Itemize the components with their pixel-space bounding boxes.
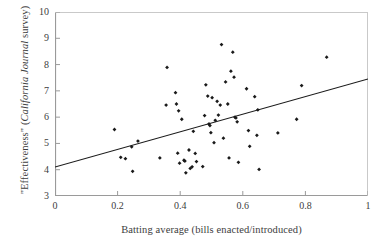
data-point-marker [119, 155, 123, 159]
data-point-marker [325, 55, 329, 59]
y-axis-title-italic: California Journal [19, 41, 30, 122]
data-point-marker [193, 152, 197, 156]
data-point-marker [131, 169, 135, 173]
tick-marks [55, 12, 368, 196]
data-point-marker [201, 165, 205, 169]
data-point-marker [195, 160, 199, 164]
data-point-marker [113, 128, 117, 132]
data-point-marker [220, 43, 224, 47]
data-point-marker [255, 133, 259, 137]
x-tick-label: 0 [35, 201, 75, 211]
data-point-marker [295, 117, 299, 121]
x-tick-label: 0.6 [223, 201, 263, 211]
data-point-marker [176, 151, 180, 155]
scatter-chart-figure: "Effectiveness" (California Journal surv… [0, 0, 382, 244]
data-point-marker [218, 103, 222, 107]
data-point-marker [210, 96, 214, 100]
data-point-marker [232, 75, 236, 79]
data-point-marker [158, 156, 162, 160]
data-point-marker [206, 94, 210, 98]
plot-area [55, 12, 368, 196]
data-point-marker [191, 129, 195, 133]
data-point-marker [300, 84, 304, 88]
y-axis-title-prefix: "Effectiveness" ( [19, 122, 30, 195]
y-tick-label: 8 [15, 60, 49, 70]
y-tick-label: 10 [15, 7, 49, 17]
data-point-marker [224, 80, 228, 84]
data-point-marker [175, 102, 179, 106]
y-tick-label: 3 [15, 191, 49, 201]
x-tick-label: 0.4 [160, 201, 200, 211]
data-point-marker [203, 114, 207, 118]
data-point-marker [276, 131, 280, 135]
data-point-marker [231, 50, 235, 54]
data-point-marker [245, 87, 249, 91]
data-point-marker [226, 102, 230, 106]
data-point-marker [124, 157, 128, 161]
data-point-marker [212, 141, 216, 145]
data-point-marker [136, 139, 140, 143]
data-point-marker [221, 136, 225, 140]
x-tick-label: 0.8 [285, 201, 325, 211]
data-points [113, 43, 329, 175]
data-point-marker [227, 156, 231, 160]
data-point-marker [229, 69, 233, 73]
data-point-marker [187, 148, 191, 152]
data-point-marker [204, 83, 208, 87]
x-axis-title: Batting average (bills enacted/introduce… [55, 224, 368, 235]
data-point-marker [257, 168, 261, 172]
data-point-marker [216, 113, 220, 117]
trend-line [55, 79, 368, 167]
data-point-marker [177, 109, 181, 113]
data-point-marker [180, 117, 184, 121]
data-point-marker [237, 160, 241, 164]
axes [55, 12, 368, 196]
plot-svg [55, 12, 368, 196]
y-tick-label: 7 [15, 86, 49, 96]
x-tick-label: 1 [348, 201, 382, 211]
data-point-marker [253, 95, 257, 99]
y-tick-label: 6 [15, 112, 49, 122]
data-point-marker [165, 66, 169, 70]
data-point-marker [256, 108, 260, 112]
data-point-marker [247, 129, 251, 133]
y-tick-label: 5 [15, 138, 49, 148]
y-tick-label: 9 [15, 33, 49, 43]
data-point-marker [235, 120, 239, 124]
regression-line [55, 79, 368, 167]
y-tick-label: 4 [15, 165, 49, 175]
data-point-marker [184, 171, 188, 175]
data-point-marker [174, 91, 178, 95]
data-point-marker [209, 131, 213, 135]
data-point-marker [248, 144, 252, 148]
data-point-marker [215, 99, 219, 103]
data-point-marker [164, 103, 168, 107]
data-point-marker [178, 161, 182, 165]
x-tick-label: 0.2 [98, 201, 138, 211]
